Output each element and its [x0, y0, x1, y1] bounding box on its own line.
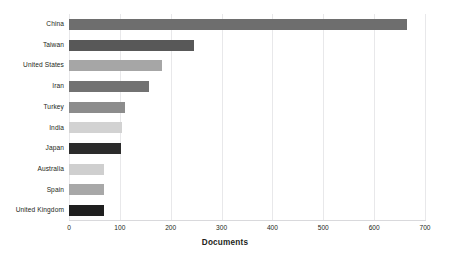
bar-row[interactable] [69, 180, 425, 201]
bar-row[interactable] [69, 14, 425, 35]
bar[interactable] [69, 164, 104, 175]
bar[interactable] [69, 102, 125, 113]
bar[interactable] [69, 60, 162, 71]
category-label: China [46, 14, 64, 35]
x-tick-label: 700 [419, 224, 430, 231]
bar-row[interactable] [69, 55, 425, 76]
x-tick-label: 500 [318, 224, 329, 231]
bar[interactable] [69, 40, 194, 51]
category-label: Australia [37, 159, 64, 180]
bar[interactable] [69, 122, 122, 133]
bar-row[interactable] [69, 118, 425, 139]
bar-row[interactable] [69, 200, 425, 221]
bar-row[interactable] [69, 138, 425, 159]
category-label: Japan [46, 138, 64, 159]
bar-row[interactable] [69, 76, 425, 97]
x-axis-tick-labels: 0100200300400500600700 [0, 224, 450, 236]
gridline [425, 14, 426, 221]
category-label: United Kingdom [16, 200, 64, 221]
bar-row[interactable] [69, 159, 425, 180]
x-tick-label: 300 [216, 224, 227, 231]
x-tick-label: 400 [267, 224, 278, 231]
bar[interactable] [69, 143, 121, 154]
bar[interactable] [69, 81, 149, 92]
bar[interactable] [69, 184, 104, 195]
bar-row[interactable] [69, 97, 425, 118]
category-label: Iran [52, 76, 64, 97]
bar[interactable] [69, 205, 104, 216]
category-label: Turkey [43, 97, 64, 118]
x-tick-label: 100 [114, 224, 125, 231]
category-label: Spain [47, 180, 64, 201]
bar-chart: ChinaTaiwanUnited StatesIranTurkeyIndiaJ… [0, 0, 450, 264]
category-label: United States [23, 55, 64, 76]
x-axis-title: Documents [0, 238, 450, 247]
x-tick-label: 600 [369, 224, 380, 231]
x-tick-label: 200 [165, 224, 176, 231]
bar-row[interactable] [69, 35, 425, 56]
x-axis-baseline [69, 220, 426, 221]
x-tick-label: 0 [67, 224, 71, 231]
plot-area [69, 14, 425, 221]
category-label: India [49, 118, 64, 139]
category-label: Taiwan [43, 35, 64, 56]
bar[interactable] [69, 19, 407, 30]
